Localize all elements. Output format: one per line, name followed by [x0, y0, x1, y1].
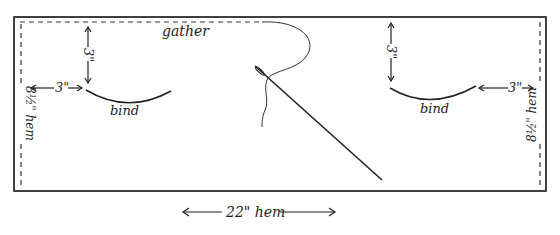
label-top-right-horizontal: 3"	[508, 80, 522, 95]
sewing-pattern-diagram: 3" 3" bind gather 3" 3" bind 8½" hem 8½"…	[0, 0, 560, 235]
label-left-hem: 8½" hem	[23, 86, 37, 141]
label-gather: gather	[162, 23, 210, 39]
fabric-outline	[14, 17, 546, 191]
label-bind-left: bind	[110, 103, 139, 118]
thread	[262, 22, 310, 127]
label-top-left-vertical: 3"	[81, 48, 96, 62]
bind-arc-left	[86, 90, 171, 103]
label-right-hem: 8½" hem	[525, 87, 539, 142]
label-top-left-horizontal: 3"	[55, 80, 69, 95]
needle-icon	[254, 66, 382, 180]
label-bind-right: bind	[420, 101, 449, 116]
fabric-border	[14, 17, 546, 191]
label-bottom-hem: 22" hem	[225, 204, 285, 220]
label-top-right-vertical: 3"	[384, 45, 399, 59]
bind-arc-right	[390, 86, 476, 100]
